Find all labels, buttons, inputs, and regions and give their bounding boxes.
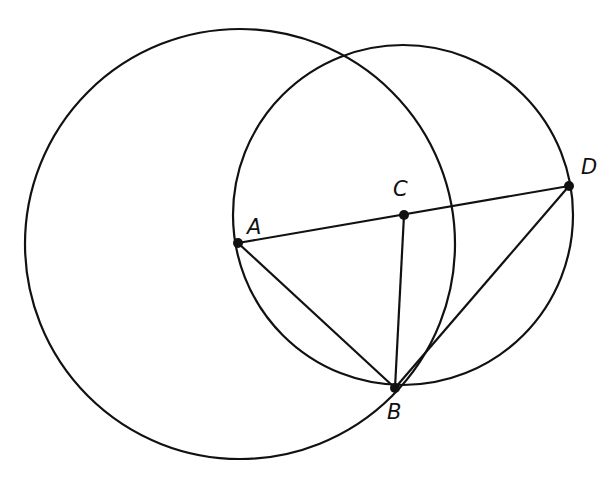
circles: [25, 29, 573, 459]
point-b: [390, 383, 400, 393]
label-c: C: [393, 177, 408, 201]
segment-AB: [238, 243, 395, 388]
point-d: [564, 181, 574, 191]
point-a: [233, 238, 243, 248]
segment-CB: [395, 215, 404, 388]
label-d: D: [581, 155, 597, 179]
segment-DB: [395, 186, 569, 388]
geometry-diagram: A B C D: [0, 0, 614, 479]
label-a: A: [245, 215, 261, 239]
point-c: [399, 210, 409, 220]
label-b: B: [387, 400, 401, 424]
